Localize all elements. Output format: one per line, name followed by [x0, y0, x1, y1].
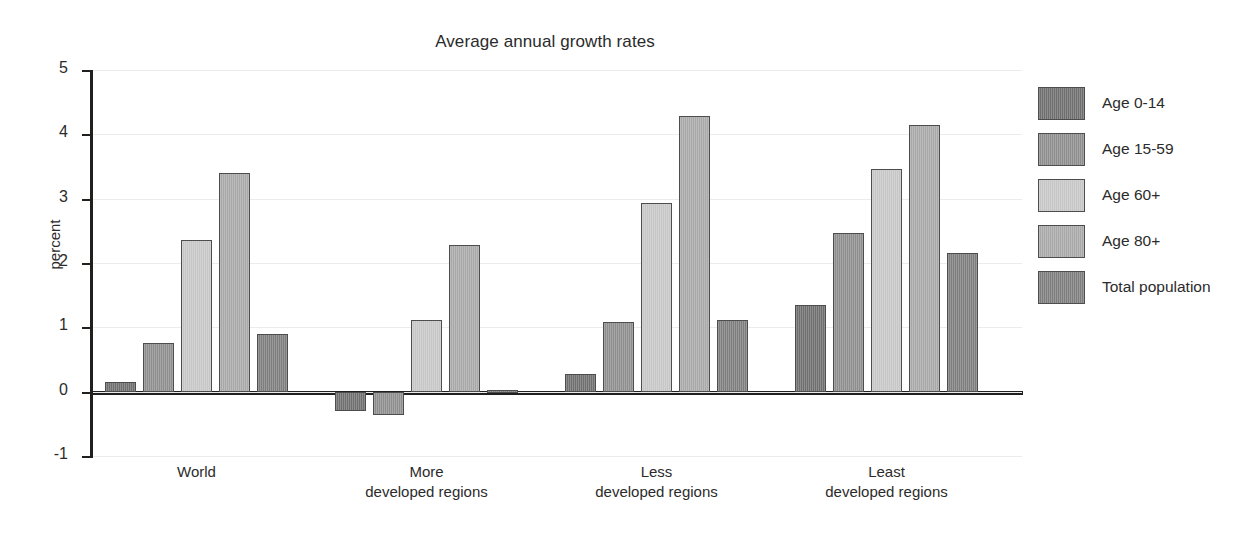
legend-item[interactable]: Age 0-14	[1038, 80, 1253, 126]
bar	[143, 343, 174, 392]
legend-swatch	[1038, 87, 1085, 120]
bar	[603, 322, 634, 391]
gridline	[93, 392, 1022, 393]
bar	[257, 334, 288, 391]
gridline	[93, 134, 1022, 135]
bar	[449, 245, 480, 392]
bar	[411, 320, 442, 391]
legend-label: Age 80+	[1102, 232, 1160, 250]
y-axis-tick-label: -1	[28, 445, 68, 463]
y-axis-tick	[82, 70, 93, 72]
y-axis-tick	[82, 392, 93, 394]
y-axis-tick-label: 3	[28, 188, 68, 206]
plot-area	[93, 70, 1022, 456]
legend-label: Age 0-14	[1102, 94, 1165, 112]
bar	[487, 390, 518, 393]
chart-legend: Age 0-14Age 15-59Age 60+Age 80+Total pop…	[1038, 80, 1253, 310]
legend-item[interactable]: Age 60+	[1038, 172, 1253, 218]
y-axis-tick-label: 4	[28, 123, 68, 141]
x-axis-group-label: Least developed regions	[767, 462, 1007, 502]
y-axis-tick	[82, 327, 93, 329]
bar	[181, 240, 212, 391]
bar	[219, 173, 250, 392]
y-axis-tick	[82, 199, 93, 201]
bar	[871, 169, 902, 392]
bar	[947, 253, 978, 391]
y-axis-tick	[82, 456, 93, 458]
legend-item[interactable]: Age 15-59	[1038, 126, 1253, 172]
legend-label: Age 15-59	[1102, 140, 1174, 158]
gridline	[93, 456, 1022, 457]
legend-swatch	[1038, 133, 1085, 166]
legend-swatch	[1038, 179, 1085, 212]
bar	[105, 382, 136, 392]
x-axis-group-label: World	[77, 462, 317, 482]
bar	[565, 374, 596, 392]
x-axis-group-label: Less developed regions	[537, 462, 777, 502]
legend-swatch	[1038, 225, 1085, 258]
y-axis-tick	[82, 263, 93, 265]
gridline	[93, 70, 1022, 71]
chart-title: Average annual growth rates	[0, 32, 1090, 52]
legend-item[interactable]: Total population	[1038, 264, 1253, 310]
y-axis-tick-label: 2	[28, 252, 68, 270]
bar	[795, 305, 826, 392]
y-axis-tick-label: 5	[28, 59, 68, 77]
chart-figure: Average annual growth rates percent 5432…	[0, 0, 1260, 533]
y-axis-tick-label: 0	[28, 381, 68, 399]
legend-label: Total population	[1102, 278, 1211, 296]
legend-item[interactable]: Age 80+	[1038, 218, 1253, 264]
bar	[909, 125, 940, 392]
bar	[335, 392, 366, 411]
bar	[833, 233, 864, 392]
bar	[717, 320, 748, 391]
legend-swatch	[1038, 271, 1085, 304]
x-axis-group-label: More developed regions	[307, 462, 547, 502]
y-axis-tick-label: 1	[28, 316, 68, 334]
bar	[641, 203, 672, 392]
bar	[679, 116, 710, 391]
legend-label: Age 60+	[1102, 186, 1160, 204]
bar	[373, 392, 404, 416]
y-axis-tick	[82, 134, 93, 136]
